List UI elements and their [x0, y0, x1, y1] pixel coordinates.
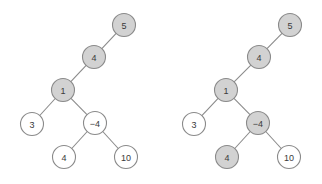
tree-node[interactable]: 10	[115, 146, 138, 169]
node-label: 1	[60, 86, 65, 96]
node-label: 1	[223, 86, 228, 96]
tree-edge	[266, 132, 282, 149]
tree-edge	[202, 98, 218, 115]
tree-edge	[234, 98, 250, 114]
tree-edge	[72, 132, 88, 149]
node-label: 3	[191, 120, 196, 130]
binary-tree-diagram: 5413−44105413−4410	[0, 0, 322, 184]
tree-node[interactable]: 1	[215, 79, 238, 102]
node-label: −4	[90, 119, 100, 129]
tree-edge	[234, 65, 251, 82]
tree-node[interactable]: 4	[248, 46, 271, 69]
node-label: 4	[61, 153, 66, 163]
node-label: 4	[256, 53, 261, 63]
node-label: 5	[287, 21, 292, 31]
tree-edge	[40, 99, 56, 116]
node-label: 4	[224, 153, 229, 163]
diagram-canvas: 5413−44105413−4410	[0, 0, 322, 184]
tree-node[interactable]: −4	[247, 112, 270, 135]
tree-node[interactable]: 3	[183, 113, 206, 136]
tree-edge	[71, 65, 86, 81]
tree-node[interactable]: 10	[278, 146, 301, 169]
tree-node[interactable]: 4	[53, 146, 76, 169]
node-label: 5	[121, 21, 126, 31]
left-tree: 5413−4410	[21, 14, 138, 169]
right-tree: 5413−4410	[183, 14, 302, 169]
tree-edge	[267, 33, 282, 48]
tree-edge	[103, 132, 119, 149]
tree-node[interactable]: 5	[279, 14, 302, 37]
tree-edge	[102, 33, 116, 48]
tree-node[interactable]: −4	[84, 112, 107, 135]
node-label: 4	[91, 53, 96, 63]
node-label: 10	[284, 153, 294, 163]
tree-node[interactable]: 1	[52, 79, 75, 102]
tree-edge	[71, 98, 87, 114]
node-label: 3	[29, 120, 34, 130]
tree-node[interactable]: 4	[83, 46, 106, 69]
tree-node[interactable]: 4	[216, 146, 239, 169]
tree-node[interactable]: 3	[21, 113, 44, 136]
node-label: 10	[121, 153, 131, 163]
tree-node[interactable]: 5	[113, 14, 136, 37]
node-label: −4	[253, 119, 263, 129]
tree-edge	[235, 132, 251, 149]
edge-group	[202, 33, 282, 148]
